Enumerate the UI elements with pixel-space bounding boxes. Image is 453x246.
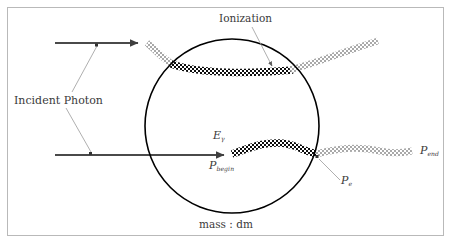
incident-photon-lower-anchor-dot bbox=[89, 152, 92, 155]
diagram-graphics bbox=[0, 0, 453, 246]
incident-photon-pointer-lower bbox=[66, 108, 91, 152]
label-photon-energy-symbol: E bbox=[213, 129, 221, 142]
label-momentum-begin-subscript: begin bbox=[216, 165, 234, 172]
label-photon-energy: Eγ bbox=[213, 130, 225, 142]
label-ionization: Ionization bbox=[219, 13, 272, 24]
ionizing-wave-segment bbox=[171, 64, 293, 72]
label-incident-photon: Incident Photon bbox=[14, 95, 103, 106]
pe-anchor-dot bbox=[316, 155, 319, 158]
label-momentum-begin: Pbegin bbox=[209, 160, 234, 172]
upper-photon-track bbox=[55, 41, 378, 72]
label-mass-element: mass : dm bbox=[199, 219, 253, 230]
label-photon-energy-subscript: γ bbox=[221, 135, 225, 142]
lower-photon-wave-outgoing bbox=[316, 148, 412, 154]
figure-canvas: Ionization Incident Photon Eγ Pbegin Pe … bbox=[0, 0, 453, 246]
lower-ionizing-wave-segment bbox=[232, 143, 318, 154]
label-momentum-electron-subscript: e bbox=[348, 180, 352, 187]
lower-photon-track bbox=[55, 143, 412, 155]
label-momentum-electron: Pe bbox=[341, 175, 352, 187]
label-momentum-end-subscript: end bbox=[427, 150, 439, 157]
upper-photon-wave-incoming bbox=[147, 43, 172, 64]
incident-photon-upper-anchor-dot bbox=[95, 44, 98, 47]
pe-pointer-line bbox=[319, 159, 340, 180]
incident-photon-pointer-upper bbox=[72, 46, 97, 92]
label-momentum-end: Pend bbox=[420, 145, 439, 157]
upper-photon-wave-outgoing bbox=[290, 41, 378, 70]
